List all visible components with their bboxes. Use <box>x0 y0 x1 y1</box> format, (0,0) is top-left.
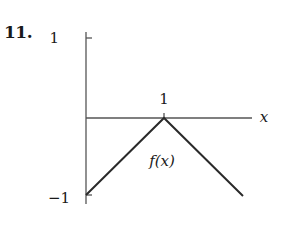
function-label: f(x) <box>148 152 175 170</box>
x-axis-label: x <box>260 108 269 126</box>
y-tick-label-top: 1 <box>49 29 59 47</box>
y-tick-label-bottom: −1 <box>48 189 70 207</box>
x-tick-label-1: 1 <box>159 90 169 108</box>
function-graph: 1 −1 1 x f(x) <box>0 0 282 231</box>
